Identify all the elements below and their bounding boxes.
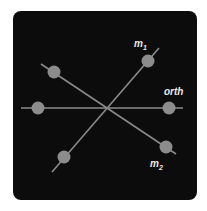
node-m1-lower [58,151,71,164]
node-m1-upper [142,55,155,68]
label-orth: orth [164,86,183,97]
diagram-canvas: m1 m2 orth [0,0,207,211]
line-m2 [41,64,176,154]
node-m2-lower [160,141,173,154]
node-orth-right [163,102,176,115]
label-m1: m1 [134,38,147,51]
label-m2: m2 [150,158,163,171]
node-m2-upper [48,66,61,79]
node-orth-left [32,102,45,115]
